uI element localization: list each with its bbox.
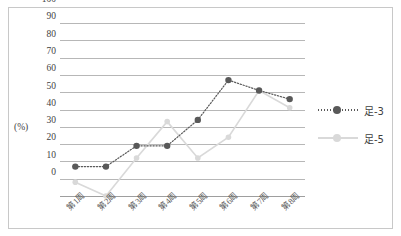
data-point-s1-3[interactable] xyxy=(133,143,139,149)
chart-legend: 足-3 足-5 xyxy=(318,96,392,152)
data-point-s1-6[interactable] xyxy=(225,77,231,83)
legend-item-series-1[interactable]: 足-3 xyxy=(318,96,392,124)
data-point-s1-4[interactable] xyxy=(164,143,170,149)
y-axis-tick-labels: 1009080706050403020100 xyxy=(16,0,56,173)
series-line-2 xyxy=(75,90,289,196)
y-axis-tick-100: 100 xyxy=(22,0,56,4)
legend-swatch-solid-marker xyxy=(318,132,358,144)
data-point-s2-1[interactable] xyxy=(73,179,79,185)
plot-area xyxy=(60,23,305,196)
data-point-s1-7[interactable] xyxy=(256,87,262,93)
series-layer xyxy=(60,23,305,196)
y-axis-tick-90: 90 xyxy=(22,12,56,21)
data-point-s1-8[interactable] xyxy=(286,96,292,102)
legend-label-series-1: 足-3 xyxy=(358,103,384,118)
data-point-s2-8[interactable] xyxy=(287,105,293,111)
data-point-s1-2[interactable] xyxy=(103,163,109,169)
data-point-s2-4[interactable] xyxy=(164,119,170,125)
data-point-s1-5[interactable] xyxy=(195,117,201,123)
data-point-s1-1[interactable] xyxy=(72,163,78,169)
data-point-s2-6[interactable] xyxy=(226,134,232,140)
y-axis-tick-50: 50 xyxy=(22,82,56,91)
legend-swatch-dotted-marker xyxy=(318,104,358,116)
y-axis-tick-80: 80 xyxy=(22,30,56,39)
y-axis-tick-0: 0 xyxy=(22,168,56,177)
data-point-s2-3[interactable] xyxy=(134,155,140,161)
y-axis-unit-label: (%) xyxy=(14,122,28,132)
legend-label-series-2: 足-5 xyxy=(358,131,384,146)
y-axis-tick-70: 70 xyxy=(22,47,56,56)
data-point-s2-5[interactable] xyxy=(195,155,201,161)
y-axis-tick-20: 20 xyxy=(22,133,56,142)
y-axis-tick-60: 60 xyxy=(22,64,56,73)
y-axis-tick-40: 40 xyxy=(22,99,56,108)
legend-item-series-2[interactable]: 足-5 xyxy=(318,124,392,152)
chart-screenshot: 1009080706050403020100 (%) 第1周第2周第3周第4周第… xyxy=(0,0,401,236)
y-axis-tick-10: 10 xyxy=(22,151,56,160)
x-axis-tick-labels: 第1周第2周第3周第4周第5周第6周第7周第8周 xyxy=(60,198,305,236)
